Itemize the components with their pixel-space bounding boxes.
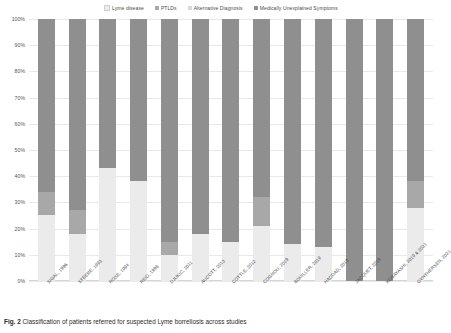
bar-segment[interactable] (69, 210, 86, 234)
bar-segment[interactable] (130, 181, 147, 281)
legend-swatch-icon (155, 6, 159, 10)
bar-column[interactable] (62, 19, 93, 281)
stacked-bar[interactable] (284, 19, 301, 281)
stacked-bar[interactable] (315, 19, 332, 281)
legend-label: PTLDs (161, 5, 177, 11)
bar-segment[interactable] (284, 19, 301, 244)
y-axis-tick-label: 10% (15, 252, 25, 258)
legend-item-medically-unexplained-symptoms: Medically Unexplained Symptoms (254, 5, 338, 11)
y-axis-tick-label: 70% (15, 95, 25, 101)
y-axis-tick-label: 90% (15, 42, 25, 48)
legend-swatch-icon (254, 6, 258, 10)
bar-segment[interactable] (38, 215, 55, 281)
legend-label: Lyme disease (112, 5, 144, 11)
caption-text: Classification of patients referred for … (22, 318, 246, 325)
bar-column[interactable] (339, 19, 370, 281)
stacked-bar[interactable] (222, 19, 239, 281)
bar-column[interactable] (93, 19, 124, 281)
plot-area: 100%90%80%70%60%50%40%30%20%10%0% (29, 19, 433, 281)
bar-segment[interactable] (253, 197, 270, 226)
y-axis-tick-label: 60% (15, 121, 25, 127)
y-axis-tick-label: 20% (15, 226, 25, 232)
bar-column[interactable] (123, 19, 154, 281)
y-axis-tick-label: 100% (12, 16, 25, 22)
bar-column[interactable] (246, 19, 277, 281)
bar-segment[interactable] (253, 226, 270, 281)
bar-column[interactable] (216, 19, 247, 281)
bar-column[interactable] (277, 19, 308, 281)
figure-caption: Fig. 2 Classification of patients referr… (4, 318, 438, 331)
bar-column[interactable] (154, 19, 185, 281)
bar-segment[interactable] (192, 19, 209, 234)
legend-item-alternative-diagnosis: Alternative Diagnosis (188, 5, 243, 11)
chart-legend: Lyme disease PTLDs Alternative Diagnosis… (104, 2, 434, 14)
stacked-bar[interactable] (192, 19, 209, 281)
stacked-bar[interactable] (99, 19, 116, 281)
bar-segment[interactable] (222, 19, 239, 242)
bar-segment[interactable] (99, 168, 116, 281)
y-axis-tick-label: 40% (15, 173, 25, 179)
bar-segment[interactable] (407, 19, 424, 181)
bar-segment[interactable] (38, 192, 55, 216)
bar-segment[interactable] (161, 242, 178, 255)
bar-column[interactable] (308, 19, 339, 281)
bar-column[interactable] (369, 19, 400, 281)
legend-label: Medically Unexplained Symptoms (260, 5, 338, 11)
stacked-bar[interactable] (376, 19, 393, 281)
bar-segment[interactable] (161, 19, 178, 242)
legend-swatch-icon (104, 5, 110, 11)
bar-segment[interactable] (38, 19, 55, 192)
bar-group (29, 19, 433, 281)
legend-swatch-icon (188, 6, 192, 10)
legend-item-ptlds: PTLDs (155, 5, 177, 11)
bar-segment[interactable] (376, 19, 393, 281)
bar-column[interactable] (31, 19, 62, 281)
bar-segment[interactable] (253, 19, 270, 197)
bar-column[interactable] (185, 19, 216, 281)
y-axis-tick-label: 50% (15, 147, 25, 153)
y-axis-tick-label: 30% (15, 199, 25, 205)
y-axis-tick-label: 0% (18, 278, 26, 284)
legend-label: Alternative Diagnosis (194, 5, 243, 11)
bar-segment[interactable] (346, 19, 363, 281)
stacked-bar[interactable] (253, 19, 270, 281)
bar-segment[interactable] (315, 19, 332, 247)
legend-item-lyme-disease: Lyme disease (104, 5, 144, 11)
stacked-bar[interactable] (130, 19, 147, 281)
stacked-bar[interactable] (69, 19, 86, 281)
stacked-bar[interactable] (161, 19, 178, 281)
bar-segment[interactable] (407, 181, 424, 207)
bar-segment[interactable] (69, 19, 86, 210)
y-axis-tick-label: 80% (15, 68, 25, 74)
stacked-bar[interactable] (346, 19, 363, 281)
bar-column[interactable] (400, 19, 431, 281)
bar-segment[interactable] (99, 19, 116, 168)
caption-label: Fig. 2 (4, 318, 21, 325)
bar-segment[interactable] (130, 19, 147, 181)
stacked-bar[interactable] (38, 19, 55, 281)
stacked-bar[interactable] (407, 19, 424, 281)
